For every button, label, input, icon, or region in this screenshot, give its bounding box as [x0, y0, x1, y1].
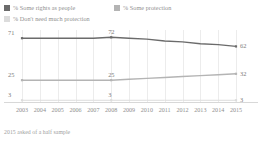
value-label-s0-2015: 62: [240, 42, 246, 49]
value-label-s1-2003: 25: [8, 71, 14, 78]
series-lines: [4, 30, 258, 103]
legend-swatch-icon: [4, 16, 10, 22]
x-tick-2009: 2009: [123, 106, 135, 114]
x-tick-2007: 2007: [87, 106, 99, 114]
legend-item-dont-need-much-protection[interactable]: % Don't need much protection: [4, 13, 90, 24]
plot-area: [4, 30, 258, 103]
series-line-1: [22, 74, 236, 80]
value-label-s0-2003: 71: [8, 29, 14, 36]
chart-legend: % Some rights as people % Some protectio…: [4, 2, 258, 24]
legend-label-some-protection: % Some protection: [123, 4, 171, 11]
x-tick-2012: 2012: [176, 106, 188, 114]
x-tick-2005: 2005: [52, 106, 64, 114]
legend-label-dont-need-much-protection: % Don't need much protection: [13, 15, 90, 22]
x-tick-2010: 2010: [141, 106, 153, 114]
x-tick-2004: 2004: [34, 106, 46, 114]
series-line-0: [22, 37, 236, 46]
legend-row-1: % Some rights as people % Some protectio…: [4, 2, 258, 13]
series-0-marker: [110, 36, 112, 38]
x-tick-2011: 2011: [159, 106, 171, 114]
legend-item-some-rights-as-people[interactable]: % Some rights as people: [4, 2, 114, 13]
line-chart: % Some rights as people % Some protectio…: [0, 0, 262, 145]
value-label-s2-2003: 3: [8, 91, 11, 98]
x-tick-2015: 2015: [230, 106, 242, 114]
series-1-marker: [110, 79, 112, 81]
x-tick-2006: 2006: [69, 106, 81, 114]
series-0-marker: [21, 37, 23, 39]
value-label-s2-2008: 3: [108, 91, 111, 98]
value-label-s2-2015: 3: [240, 96, 243, 103]
series-0-marker: [235, 45, 237, 47]
chart-footnote: 2015 asked of a half sample: [4, 128, 70, 136]
legend-row-2: % Don't need much protection: [4, 13, 258, 24]
x-tick-2003: 2003: [16, 106, 28, 114]
x-axis-baseline: [4, 102, 258, 103]
value-label-s1-2015: 32: [240, 70, 246, 77]
series-1-marker: [21, 79, 23, 81]
x-tick-2008: 2008: [105, 106, 117, 114]
value-label-s1-2008: 25: [108, 71, 114, 78]
legend-item-some-protection[interactable]: % Some protection: [114, 2, 171, 13]
legend-swatch-icon: [114, 5, 120, 11]
value-label-s0-2008: 72: [108, 28, 114, 35]
x-tick-2014: 2014: [212, 106, 224, 114]
x-tick-2013: 2013: [194, 106, 206, 114]
legend-label-some-rights-as-people: % Some rights as people: [13, 4, 75, 11]
x-axis: 2003200420052006200720082009201020112012…: [4, 106, 258, 116]
legend-swatch-icon: [4, 5, 10, 11]
series-1-marker: [235, 73, 237, 75]
